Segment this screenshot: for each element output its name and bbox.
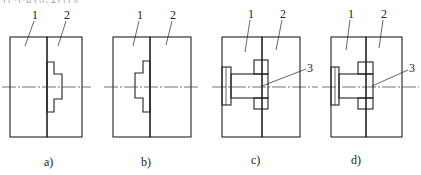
leader-line-1 — [346, 20, 350, 50]
leader-line-1 — [133, 21, 139, 46]
part-number-3: 3 — [409, 61, 415, 75]
part-number-1: 1 — [348, 7, 354, 21]
part-number-3: 3 — [307, 61, 313, 75]
panel-c: 1 2 3 c) — [212, 7, 318, 167]
panel-caption: b) — [141, 155, 151, 169]
leader-line-3 — [372, 70, 408, 86]
leader-line-2 — [276, 20, 282, 50]
panel-caption: d) — [351, 153, 361, 167]
panel-d: 1 2 3 d) — [322, 7, 419, 167]
part-number-2: 2 — [170, 8, 176, 22]
panel-b: 1 2 b) — [104, 8, 200, 169]
leader-line-2 — [379, 20, 383, 48]
part-number-2: 2 — [64, 8, 70, 22]
panel-caption: a) — [44, 155, 53, 169]
pin-shaft — [339, 74, 373, 98]
panel-caption: c) — [251, 153, 260, 167]
leader-line-1 — [25, 21, 34, 46]
seal-ring-upper — [254, 60, 268, 74]
seal-ring-lower — [254, 98, 268, 109]
leader-line-3 — [262, 69, 306, 86]
pin-head — [222, 67, 231, 105]
part-number-2: 2 — [280, 7, 286, 21]
seal-ring — [135, 61, 150, 112]
seal-arrangement-diagram: 1 2 a) 1 2 b) 1 2 3 c) — [0, 0, 421, 175]
leader-line-2 — [58, 21, 66, 46]
leader-line-2 — [166, 21, 172, 45]
part-number-1: 1 — [137, 8, 143, 22]
part-number-2: 2 — [381, 7, 387, 21]
leader-line-1 — [245, 20, 250, 52]
part-number-1: 1 — [32, 8, 38, 22]
part-number-1: 1 — [248, 7, 254, 21]
panel-a: 1 2 a) — [2, 8, 91, 169]
